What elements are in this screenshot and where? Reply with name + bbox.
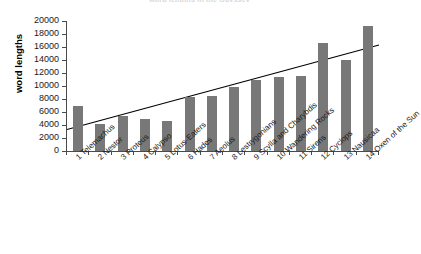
- x-axis-labels: 1 Telemachus2 Nestor3 Proteus4 Calypso5 …: [0, 151, 399, 251]
- bar: [73, 106, 83, 152]
- y-axis-tick-label: 16000: [34, 41, 59, 52]
- y-axis-tick-label: 20000: [34, 15, 59, 26]
- y-axis-tick-label: 10000: [34, 80, 59, 91]
- trendline: [67, 21, 379, 151]
- plot-area: [66, 21, 379, 152]
- y-axis-tick-label: 12000: [34, 67, 59, 78]
- y-axis-tick-label: 18000: [34, 28, 59, 39]
- y-axis-tick-label: 8000: [39, 93, 59, 104]
- y-axis-tick-label: 4000: [39, 119, 59, 130]
- y-axis-tick-label: 2000: [39, 132, 59, 143]
- y-axis-tick-label: 14000: [34, 54, 59, 65]
- y-axis-ticks: 0200040006000800010000120001400016000180…: [0, 0, 66, 152]
- y-axis-tick-label: 6000: [39, 106, 59, 117]
